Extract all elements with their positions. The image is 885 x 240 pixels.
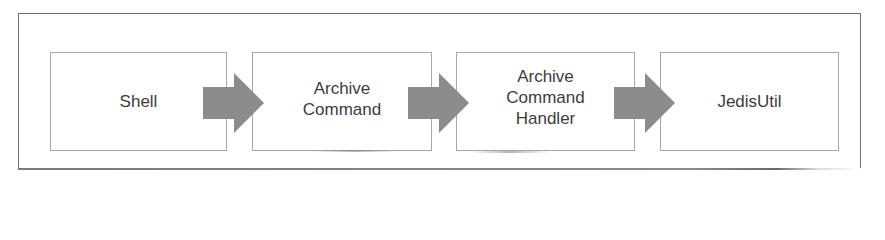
node-archive-command: Archive Command	[252, 52, 432, 151]
node-archive-command-handler-label: Archive Command Handler	[506, 66, 584, 129]
node-archive-command-handler: Archive Command Handler	[456, 52, 635, 151]
node-shell: Shell	[50, 52, 227, 151]
scan-artifact	[470, 151, 550, 153]
edge-archive-command-to-handler	[408, 73, 470, 133]
node-jedis-util: JedisUtil	[660, 52, 839, 151]
arrow-right-icon	[408, 73, 470, 133]
arrow-right-icon	[614, 73, 676, 133]
node-shell-label: Shell	[120, 91, 158, 112]
edge-handler-to-jedis-util	[614, 73, 676, 133]
node-jedis-util-label: JedisUtil	[717, 91, 781, 112]
diagram-frame-bottom-border	[18, 168, 861, 170]
node-archive-command-label: Archive Command	[303, 78, 381, 120]
scan-artifact	[310, 150, 400, 152]
edge-shell-to-archive-command	[203, 73, 265, 133]
arrow-right-icon	[203, 73, 265, 133]
